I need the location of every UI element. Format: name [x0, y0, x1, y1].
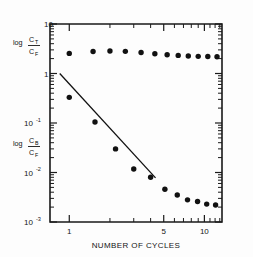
data-point-top-series: [205, 54, 210, 59]
data-point-top-series: [214, 54, 219, 59]
ylabel-bottom-denominator-sub: F: [35, 152, 38, 158]
ylabel-bottom-numerator-sub: B: [35, 140, 39, 146]
data-point-bottom-series: [204, 201, 209, 206]
ylabel-top-denominator: C: [29, 47, 34, 56]
data-point-top-series: [176, 53, 181, 58]
data-point-bottom-series: [195, 199, 200, 204]
ylabel-top-log: log: [13, 38, 23, 47]
data-point-top-series: [164, 52, 169, 57]
y-tick-label-exponent: -3: [36, 216, 41, 222]
figure-container: 10110-110-210-3 1510 log C T C F log C B…: [0, 0, 253, 257]
data-point-top-series: [138, 50, 143, 55]
data-point-bottom-series: [148, 175, 153, 180]
y-axis-major-ticks: [50, 24, 222, 222]
fit-line: [60, 74, 156, 178]
x-tick-label: 5: [161, 227, 166, 236]
y-tick-label: 10: [24, 218, 33, 227]
fit-line-segment: [60, 74, 156, 178]
data-point-top-series: [186, 53, 191, 58]
ylabel-bottom-log: log: [13, 139, 23, 148]
plot-frame: [50, 24, 222, 222]
data-point-bottom-series: [162, 186, 167, 191]
ylabel-bottom-numerator: C: [29, 136, 34, 145]
data-point-bottom-series: [113, 146, 118, 151]
data-point-top-series: [107, 48, 112, 53]
y-tick-label: 10: [24, 119, 33, 128]
y-tick-label: 10: [44, 20, 53, 29]
data-point-top-series: [152, 51, 157, 56]
data-point-top-series: [67, 51, 72, 56]
y-axis-label-top: log C T C F: [13, 35, 40, 57]
data-point-bottom-series: [131, 166, 136, 171]
data-point-top-series: [123, 49, 128, 54]
data-point-top-series: [196, 54, 201, 59]
data-point-bottom-series: [213, 202, 218, 207]
series-bottom-points: [67, 95, 219, 208]
x-tick-label: 10: [200, 227, 209, 236]
y-tick-label: 1: [44, 70, 49, 79]
series-top-points: [67, 48, 220, 59]
x-axis-major-ticks: [69, 24, 204, 222]
x-axis-title: NUMBER OF CYCLES: [92, 241, 181, 250]
y-tick-label-exponent: -2: [36, 166, 41, 172]
y-tick-label: 10: [24, 169, 33, 178]
scatter-plot: 10110-110-210-3 1510 log C T C F log C B…: [0, 0, 253, 257]
y-axis-minor-ticks: [50, 26, 222, 207]
data-point-top-series: [90, 49, 95, 54]
y-axis-label-bottom: log C B C F: [13, 136, 40, 158]
ylabel-top-numerator-sub: T: [35, 39, 39, 45]
ylabel-top-numerator: C: [29, 35, 34, 44]
data-point-bottom-series: [175, 192, 180, 197]
y-tick-label-exponent: -1: [36, 117, 41, 123]
data-point-bottom-series: [185, 197, 190, 202]
data-point-bottom-series: [92, 119, 97, 124]
x-axis-tick-labels: 1510: [67, 227, 209, 236]
ylabel-top-denominator-sub: F: [35, 51, 38, 57]
ylabel-bottom-denominator: C: [29, 148, 34, 157]
data-point-bottom-series: [67, 95, 72, 100]
x-tick-label: 1: [67, 227, 72, 236]
